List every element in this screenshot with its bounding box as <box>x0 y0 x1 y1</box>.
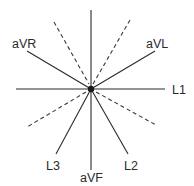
axis-l3 <box>56 89 91 154</box>
label-l3: L3 <box>46 159 60 173</box>
hexaxial-diagram: aVR aVL L1 L3 aVF L2 <box>0 0 194 186</box>
label-l2: L2 <box>124 159 138 173</box>
axis-l2 <box>91 89 128 154</box>
label-avr: aVR <box>12 37 36 51</box>
dashed-axis-upper-right <box>93 20 130 84</box>
axis-avr <box>27 51 91 89</box>
center-point <box>88 86 94 92</box>
label-avl: aVL <box>146 37 168 51</box>
dashed-axis-lower-left <box>27 92 86 127</box>
dashed-axis-upper-left <box>54 22 89 84</box>
label-l1: L1 <box>172 83 186 97</box>
label-avf: aVF <box>80 171 103 185</box>
dashed-axis-lower-right <box>96 92 156 125</box>
